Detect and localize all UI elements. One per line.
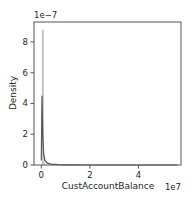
x-offset-label: 1e7 xyxy=(165,182,181,192)
y-offset-label: 1e−7 xyxy=(34,10,57,20)
y-tick-label: 6 xyxy=(23,68,28,78)
x-tick-label: 4 xyxy=(136,170,141,180)
axes-frame xyxy=(34,22,181,165)
kde-line xyxy=(41,96,177,165)
density-chart: 02468 024 1e−7 1e7 CustAccountBalance De… xyxy=(0,0,195,198)
y-tick-label: 8 xyxy=(23,37,28,47)
y-tick-label: 2 xyxy=(23,129,28,139)
x-tick-label: 0 xyxy=(39,170,44,180)
x-axis-label: CustAccountBalance xyxy=(62,181,155,191)
x-tick-label: 2 xyxy=(87,170,92,180)
y-tick-label: 4 xyxy=(23,98,28,108)
y-axis-ticks: 02468 xyxy=(23,37,34,170)
plot-area xyxy=(41,30,177,165)
y-tick-label: 0 xyxy=(23,160,28,170)
x-axis-ticks: 024 xyxy=(39,165,142,180)
y-axis-label: Density xyxy=(8,75,18,110)
